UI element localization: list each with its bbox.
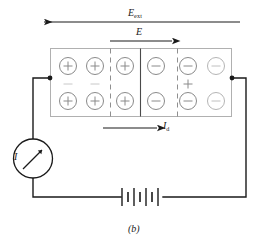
- charge-plus-r2c1: [60, 93, 77, 110]
- charge-plus-r2c3: [117, 93, 134, 110]
- e-field-label: E: [136, 27, 142, 37]
- e-field-symbol: E: [136, 26, 142, 37]
- wire-left-upper: [33, 78, 50, 139]
- charge-plus-r1c2: [87, 58, 104, 75]
- wire-left-lower: [33, 178, 121, 197]
- charge-minus-r1c4: [148, 58, 165, 75]
- ammeter-current-symbol: I: [14, 151, 17, 162]
- e-ext-subscript: ext: [134, 12, 142, 19]
- charge-minus-r2c5: [180, 93, 197, 110]
- circuit-wiring: [33, 78, 246, 197]
- charge-row-top: [60, 58, 225, 75]
- charge-minus-r1c5: [180, 58, 197, 75]
- ammeter-current-label: I: [14, 152, 17, 162]
- figure-caption: (b): [128, 224, 140, 234]
- interface-signs: [64, 80, 193, 89]
- charge-minus-r2c6: [208, 93, 225, 110]
- wire-right: [163, 78, 246, 197]
- dielectric-slab: [51, 49, 232, 117]
- faint-plus-c5: [184, 80, 193, 89]
- id-label: Id: [163, 121, 170, 132]
- charge-plus-r2c2: [87, 93, 104, 110]
- e-ext-label: Eext: [128, 8, 142, 19]
- terminal-dot-left: [48, 76, 53, 81]
- terminal-dot-right: [230, 76, 235, 81]
- charge-plus-r1c3: [117, 58, 134, 75]
- id-subscript: d: [166, 125, 169, 132]
- charge-row-bottom: [60, 93, 225, 110]
- charge-minus-r1c6: [208, 58, 225, 75]
- charge-minus-r2c4: [148, 93, 165, 110]
- battery: [122, 188, 158, 206]
- circuit-figure: Eext E Id I (b): [0, 0, 272, 244]
- ammeter[interactable]: [14, 139, 53, 178]
- charge-plus-r1c1: [60, 58, 77, 75]
